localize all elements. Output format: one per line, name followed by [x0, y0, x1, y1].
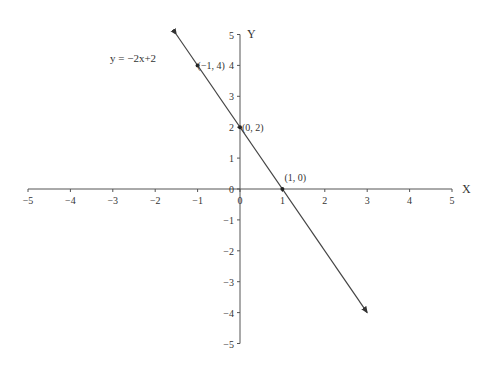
x-axis-label: X: [462, 182, 471, 196]
line-series: [176, 35, 367, 313]
x-tick-label: −3: [107, 195, 118, 206]
x-tick-label: 2: [322, 195, 327, 206]
y-tick-label: −1: [223, 215, 234, 226]
point-marker: [280, 187, 284, 191]
y-tick-label: 2: [229, 122, 234, 133]
point-label: (1, 0): [284, 172, 306, 184]
y-tick-label: −3: [223, 277, 234, 288]
plot-line: [176, 35, 367, 313]
y-tick-label: 1: [229, 153, 234, 164]
y-tick-label: 0: [229, 184, 234, 195]
x-tick-label: −1: [192, 195, 203, 206]
point-label: (−1, 4): [198, 60, 225, 72]
x-tick-label: 5: [450, 195, 455, 206]
point-label: (0, 2): [242, 122, 264, 134]
equation-label: y = −2x+2: [110, 52, 156, 64]
coordinate-plane: −5−4−3−2−1012345−5−4−3−2−1012345 (−1, 4)…: [0, 0, 488, 365]
x-tick-label: 1: [280, 195, 285, 206]
y-tick-label: −4: [223, 308, 234, 319]
x-tick-label: 0: [238, 195, 243, 206]
x-tick-label: −5: [23, 195, 34, 206]
x-tick-label: 4: [407, 195, 412, 206]
x-tick-label: −2: [150, 195, 161, 206]
y-tick-label: 5: [229, 30, 234, 41]
y-axis-label: Y: [247, 27, 256, 41]
y-tick-label: 4: [229, 60, 234, 71]
y-tick-label: −2: [223, 246, 234, 257]
y-tick-label: 3: [229, 91, 234, 102]
x-tick-label: 3: [365, 195, 370, 206]
y-tick-label: −5: [223, 339, 234, 350]
labeled-points: (−1, 4)(0, 2)(1, 0): [196, 60, 306, 191]
x-tick-label: −4: [65, 195, 76, 206]
